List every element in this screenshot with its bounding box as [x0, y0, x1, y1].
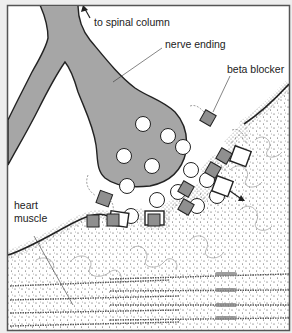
- label-to-spinal-column: to spinal column: [94, 17, 170, 28]
- diagram-canvas: [0, 0, 292, 333]
- label-beta-blocker: beta blocker: [227, 64, 284, 75]
- label-muscle: muscle: [14, 213, 47, 224]
- label-nerve-ending: nerve ending: [165, 39, 226, 50]
- label-heart: heart: [14, 200, 38, 211]
- diagram-stage: to spinal column nerve ending beta block…: [0, 0, 292, 333]
